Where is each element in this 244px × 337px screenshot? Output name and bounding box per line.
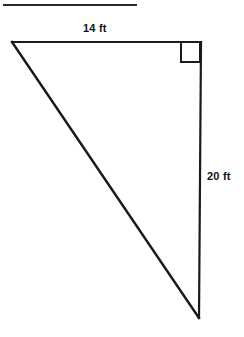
right-angle-square-icon <box>181 43 200 62</box>
diagram-canvas: 14 ft 20 ft <box>0 0 244 337</box>
right-triangle-figure <box>0 0 244 337</box>
triangle-hypotenuse <box>12 42 199 318</box>
top-leg-length-label: 14 ft <box>83 22 107 34</box>
vertical-leg-length-label: 20 ft <box>207 170 231 182</box>
triangle-vertical-leg <box>199 42 201 318</box>
